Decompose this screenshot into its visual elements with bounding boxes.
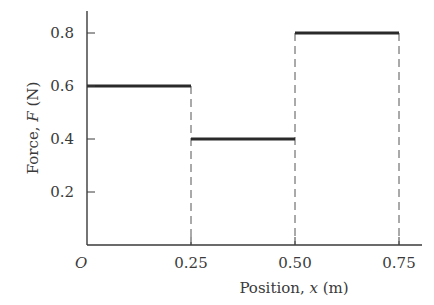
origin-label: O <box>75 254 87 272</box>
y-tick-label: 0.4 <box>50 130 74 148</box>
y-axis-label: Force, F (N) <box>24 82 42 175</box>
force-segments <box>87 33 399 139</box>
x-tick-label: 0.75 <box>382 254 415 272</box>
y-ticks: 0.20.40.60.8 <box>50 24 95 201</box>
x-axis-label-unit: (m) <box>318 279 349 297</box>
y-tick-label: 0.8 <box>50 24 74 42</box>
x-axis-label: Position, x (m) <box>239 279 348 297</box>
y-axis-label-unit: (N) <box>24 82 42 112</box>
y-axis-label-prefix: Force, <box>24 122 42 175</box>
y-tick-label: 0.2 <box>50 183 74 201</box>
y-tick-label: 0.6 <box>50 77 74 95</box>
x-ticks: 0.250.500.75 <box>174 237 415 272</box>
x-tick-label: 0.50 <box>278 254 311 272</box>
x-tick-label: 0.25 <box>174 254 207 272</box>
force-position-chart: 0.20.40.60.8 0.250.500.75 O Force, F (N)… <box>0 0 434 305</box>
axes <box>87 11 422 245</box>
y-axis-label-var: F <box>24 111 42 123</box>
x-axis-label-prefix: Position, <box>239 279 309 297</box>
